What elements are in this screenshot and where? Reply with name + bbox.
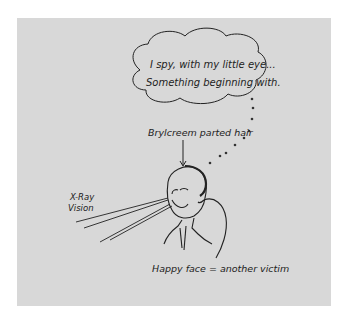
xray-label-1: X-Ray [69,192,95,202]
man-figure [164,166,226,258]
xray-label-2: Vision [68,203,94,213]
hair-arrow [180,140,186,166]
thought-line-2: Something beginning with. [146,77,281,88]
hair-label: Brylcreem parted hair [148,127,254,138]
sketch-drawing: I spy, with my little eye... Something b… [0,0,348,324]
caption: Happy face = another victim [152,263,289,274]
thought-line-1: I spy, with my little eye... [150,59,276,70]
